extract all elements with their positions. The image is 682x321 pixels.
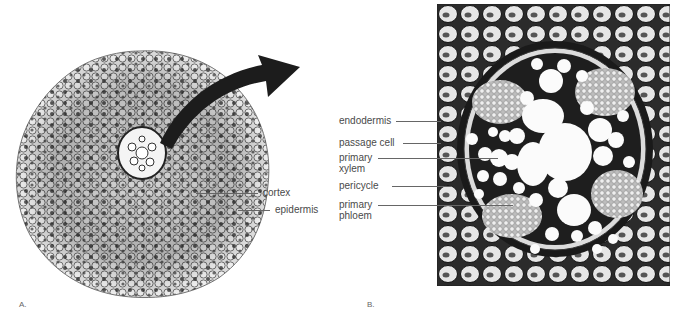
- panel-letter-b: B.: [367, 300, 375, 309]
- label-primary-xylem-line1: primary: [339, 152, 372, 163]
- pericycle-leader-line: [392, 186, 452, 187]
- magnify-arrow-icon: [150, 45, 310, 155]
- label-pericycle: pericycle: [339, 180, 378, 191]
- label-passage-cell: passage cell: [339, 137, 395, 148]
- primary-xylem-leader-line: [378, 158, 498, 159]
- label-endodermis: endodermis: [339, 115, 391, 126]
- panel-b: endodermis passage cell primary xylem pe…: [330, 0, 682, 321]
- label-primary-xylem: primary xylem: [339, 152, 372, 174]
- label-primary-phloem-line2: phloem: [339, 210, 372, 221]
- primary-phloem-leader-line: [378, 205, 513, 206]
- panel-a: cortex epidermis A.: [0, 0, 330, 321]
- passage-cell-leader-line: [403, 143, 441, 144]
- label-cortex: cortex: [263, 187, 290, 198]
- label-primary-phloem-line1: primary: [339, 199, 372, 210]
- endodermis-leader-line: [396, 121, 441, 122]
- cortex-leader-line: [196, 193, 258, 194]
- panel-letter-a: A.: [19, 300, 27, 309]
- epidermis-leader-line: [238, 210, 270, 211]
- label-epidermis: epidermis: [275, 204, 318, 215]
- label-primary-xylem-line2: xylem: [339, 163, 372, 174]
- vascular-cylinder-micrograph: [437, 4, 670, 286]
- label-primary-phloem: primary phloem: [339, 199, 372, 221]
